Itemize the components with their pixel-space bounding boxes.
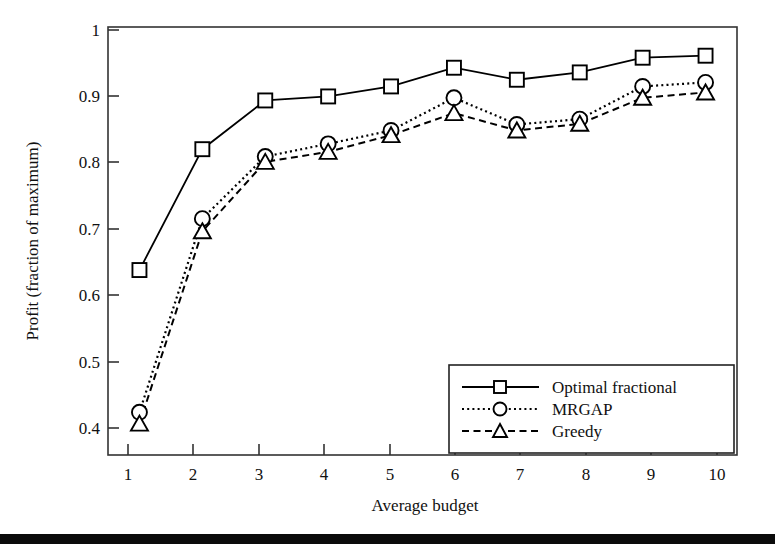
y-tick-label: 0.6 bbox=[79, 286, 100, 305]
profit-vs-budget-line-chart: 1 0.9 0.8 0.7 0.6 0.5 0.4 1 2 3 4 bbox=[0, 0, 775, 534]
x-axis-title: Average budget bbox=[372, 496, 479, 515]
data-point-square bbox=[321, 89, 335, 103]
y-tick-label: 0.4 bbox=[79, 419, 101, 438]
figure-container: 1 0.9 0.8 0.7 0.6 0.5 0.4 1 2 3 4 bbox=[0, 0, 775, 555]
y-tick-label: 0.9 bbox=[79, 87, 100, 106]
data-point-square bbox=[699, 49, 713, 63]
legend-marker-circle bbox=[494, 403, 507, 416]
legend-label-mrgap: MRGAP bbox=[552, 400, 612, 419]
x-tick-label: 6 bbox=[451, 465, 460, 484]
y-tick-label: 0.5 bbox=[79, 353, 100, 372]
legend-label-optimal-fractional: Optimal fractional bbox=[552, 378, 677, 397]
data-point-circle bbox=[446, 90, 461, 105]
data-point-square bbox=[195, 142, 209, 156]
x-axis-tick-labels: 1 2 3 4 5 6 7 8 9 10 bbox=[124, 465, 726, 484]
y-tick-label: 0.8 bbox=[79, 153, 100, 172]
x-tick-label: 10 bbox=[709, 465, 726, 484]
data-point-square bbox=[258, 93, 272, 107]
y-tick-label: 0.7 bbox=[79, 220, 101, 239]
x-tick-label: 1 bbox=[124, 465, 133, 484]
x-tick-label: 5 bbox=[386, 465, 395, 484]
data-point-square bbox=[447, 61, 461, 75]
data-point-triangle bbox=[445, 105, 462, 120]
x-tick-label: 2 bbox=[189, 465, 198, 484]
x-tick-label: 7 bbox=[516, 465, 525, 484]
series-line-optimal-fractional bbox=[139, 56, 705, 270]
data-point-square bbox=[384, 79, 398, 93]
legend-marker-square bbox=[494, 381, 506, 393]
data-point-square bbox=[573, 65, 587, 79]
y-axis-ticks bbox=[108, 30, 119, 428]
y-tick-label: 1 bbox=[92, 21, 101, 40]
x-tick-label: 9 bbox=[647, 465, 656, 484]
x-tick-label: 8 bbox=[582, 465, 591, 484]
data-point-square bbox=[510, 73, 524, 87]
legend-label-greedy: Greedy bbox=[552, 422, 603, 441]
legend[interactable]: Optimal fractional MRGAP Greedy bbox=[449, 365, 734, 453]
y-axis-title: Profit (fraction of maximum) bbox=[23, 142, 42, 341]
x-tick-label: 3 bbox=[255, 465, 264, 484]
page-bottom-rule bbox=[0, 534, 775, 544]
y-axis-tick-labels: 1 0.9 0.8 0.7 0.6 0.5 0.4 bbox=[79, 21, 101, 438]
x-tick-label: 4 bbox=[320, 465, 329, 484]
data-point-square bbox=[636, 51, 650, 65]
data-point-square bbox=[132, 263, 146, 277]
